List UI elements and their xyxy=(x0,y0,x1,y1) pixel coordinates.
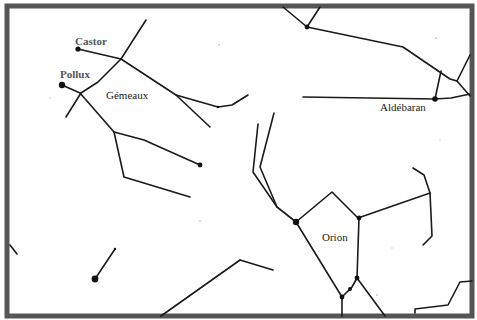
faint-stars xyxy=(49,37,441,296)
label-orion: Orion xyxy=(322,231,348,243)
star-map xyxy=(0,0,477,320)
star-pollux xyxy=(59,82,65,88)
constellation-orion xyxy=(10,113,472,316)
map-frame xyxy=(7,6,472,316)
star-aldebaran xyxy=(432,96,438,102)
label-gemeaux: Gémeaux xyxy=(106,89,148,101)
label-pollux: Pollux xyxy=(60,68,90,80)
label-castor: Castor xyxy=(75,35,107,47)
star-castor xyxy=(75,46,80,51)
constellation-taureau xyxy=(283,7,470,99)
label-aldebaran: Aldébaran xyxy=(380,101,426,113)
stars xyxy=(59,25,438,300)
